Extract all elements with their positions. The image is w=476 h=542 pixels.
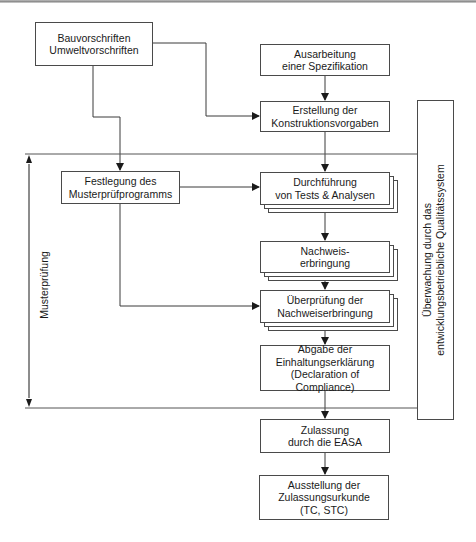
node-tests: Durchführung von Tests & Analysen xyxy=(260,172,390,205)
node-certificate: Ausstellung der Zulassungsurkunde (TC, S… xyxy=(259,475,389,520)
node-evidence-review: Überprüfung der Nachweiserbringung xyxy=(260,290,390,323)
musterpruefung-label: Musterprüfung xyxy=(38,235,52,335)
node-declaration: Abgabe der Einhaltungserklärung (Declara… xyxy=(260,345,390,391)
quality-system-label: Überwachung durch das entwicklungsbetrie… xyxy=(421,160,449,360)
node-evidence: Nachweis- erbringung xyxy=(260,241,390,273)
node-approval: Zulassung durch die EASA xyxy=(260,419,390,453)
node-design-specs: Erstellung der Konstruktionsvorgaben xyxy=(260,101,390,132)
node-regulations: Bauvorschriften Umweltvorschriften xyxy=(35,22,153,66)
node-specification: Ausarbeitung einer Spezifikation xyxy=(260,44,390,76)
node-test-program: Festlegung des Musterprüfprogramms xyxy=(61,171,180,204)
connector-lines xyxy=(0,0,476,542)
